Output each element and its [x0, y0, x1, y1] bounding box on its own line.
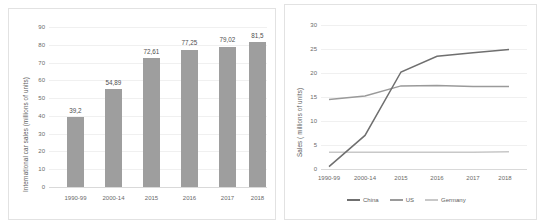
- bar-y-tick-label: 10: [29, 166, 45, 172]
- line-chart-legend: China US Germany: [347, 197, 466, 203]
- line-y-tick-label: 10: [301, 118, 317, 124]
- line-y-tick-label: 25: [301, 46, 317, 52]
- line-gridline: [321, 97, 527, 98]
- line-x-tick-label: 2015: [381, 175, 421, 181]
- line-x-tick-label: 2000-14: [345, 175, 385, 181]
- line-gridline: [321, 121, 527, 122]
- legend-label: US: [406, 197, 414, 203]
- bar-value-label: 79,02: [211, 37, 245, 43]
- bar-value-label: 72,61: [135, 49, 169, 55]
- bar-2018: [249, 42, 266, 187]
- line-chart-series-svg: [285, 5, 538, 221]
- bar-value-label: 81,5: [241, 33, 275, 39]
- line-x-axis-line: [321, 169, 527, 170]
- line-y-tick-label: 0: [301, 166, 317, 172]
- bar-y-tick-label: 0: [29, 184, 45, 190]
- bar-2016: [181, 50, 198, 187]
- legend-item-us[interactable]: US: [390, 197, 414, 203]
- line-gridline: [321, 145, 527, 146]
- bar-y-tick-label: 80: [29, 42, 45, 48]
- line-series-china: [329, 50, 509, 167]
- legend-swatch-icon: [425, 199, 438, 201]
- legend-swatch-icon: [390, 199, 403, 201]
- line-y-tick-label: 30: [301, 22, 317, 28]
- charts-page: International car sales (millions of uni…: [0, 0, 545, 224]
- line-gridline: [321, 73, 527, 74]
- line-x-tick-label: 1990-99: [309, 175, 349, 181]
- bar-x-axis-line: [49, 187, 267, 188]
- bar-x-tick-label: 2000-14: [94, 195, 134, 201]
- line-gridline: [321, 49, 527, 50]
- legend-item-germany[interactable]: Germany: [425, 197, 466, 203]
- bar-2015: [143, 58, 160, 187]
- bar-y-tick-label: 60: [29, 77, 45, 83]
- legend-item-china[interactable]: China: [347, 197, 379, 203]
- bar-y-tick-label: 70: [29, 60, 45, 66]
- line-x-tick-label: 2016: [417, 175, 457, 181]
- bar-x-tick-label: 2018: [238, 195, 278, 201]
- line-y-tick-label: 20: [301, 70, 317, 76]
- bar-x-tick-label: 1990-99: [56, 195, 96, 201]
- line-y-tick-label: 5: [301, 142, 317, 148]
- line-series-germany: [329, 152, 509, 153]
- bar-y-tick-label: 50: [29, 95, 45, 101]
- bar-2000-14: [105, 89, 122, 187]
- legend-label: Germany: [441, 197, 466, 203]
- bar-chart-panel: International car sales (millions of uni…: [8, 8, 276, 220]
- legend-label: China: [363, 197, 379, 203]
- legend-swatch-icon: [347, 199, 360, 201]
- line-chart-plot-area: Sales ( millions of units) 30 25 20 15 1…: [285, 5, 536, 219]
- bar-value-label: 39,2: [59, 108, 93, 114]
- bar-y-tick-label: 90: [29, 24, 45, 30]
- bar-value-label: 77,25: [173, 40, 207, 46]
- line-x-tick-label: 2018: [485, 175, 525, 181]
- bar-1990-99: [67, 117, 84, 187]
- bar-2017: [219, 47, 236, 188]
- bar-x-tick-label: 2015: [132, 195, 172, 201]
- bar-y-tick-label: 20: [29, 148, 45, 154]
- bar-y-tick-label: 40: [29, 113, 45, 119]
- line-chart-panel: Sales ( millions of units) 30 25 20 15 1…: [284, 4, 537, 220]
- bar-gridline: [49, 27, 267, 28]
- line-gridline: [321, 25, 527, 26]
- bar-y-tick-label: 30: [29, 131, 45, 137]
- bar-x-tick-label: 2016: [170, 195, 210, 201]
- line-y-tick-label: 15: [301, 94, 317, 100]
- bar-chart-y-axis-title: International car sales (millions of uni…: [22, 77, 29, 192]
- bar-chart-plot-area: International car sales (millions of uni…: [9, 9, 275, 219]
- bar-value-label: 54,89: [97, 80, 131, 86]
